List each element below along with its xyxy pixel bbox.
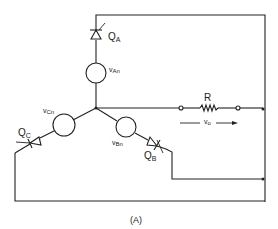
thyristor-qa-icon xyxy=(90,23,105,39)
resistor-label: R xyxy=(204,92,211,103)
phase-b-branch: vBn QB xyxy=(96,108,166,162)
figure-caption: (A) xyxy=(130,215,142,225)
phase-c-branch: vCn QC xyxy=(15,107,96,153)
voltage-source-van-icon xyxy=(86,63,106,83)
three-phase-half-wave-rectifier-diagram: QA vAn R vo vCn xyxy=(0,0,278,229)
vbn-label: vBn xyxy=(112,139,123,147)
terminal-left-icon xyxy=(179,106,183,110)
resistor-icon xyxy=(200,105,218,111)
van-label: vAn xyxy=(109,66,120,74)
terminal-right-icon xyxy=(236,106,240,110)
phase-a-branch: QA vAn xyxy=(86,23,121,108)
voltage-source-vcn-icon xyxy=(53,114,75,136)
qb-label: QB xyxy=(144,150,157,162)
load-branch: R vo xyxy=(96,92,263,126)
qa-label: QA xyxy=(108,31,121,43)
vcn-label: vCn xyxy=(43,107,54,115)
qc-label: QC xyxy=(18,127,31,139)
voltage-source-vbn-icon xyxy=(116,117,136,137)
arrow-right-icon xyxy=(232,121,238,125)
junction-dot-bottom xyxy=(262,178,265,181)
vo-label: vo xyxy=(204,118,212,126)
